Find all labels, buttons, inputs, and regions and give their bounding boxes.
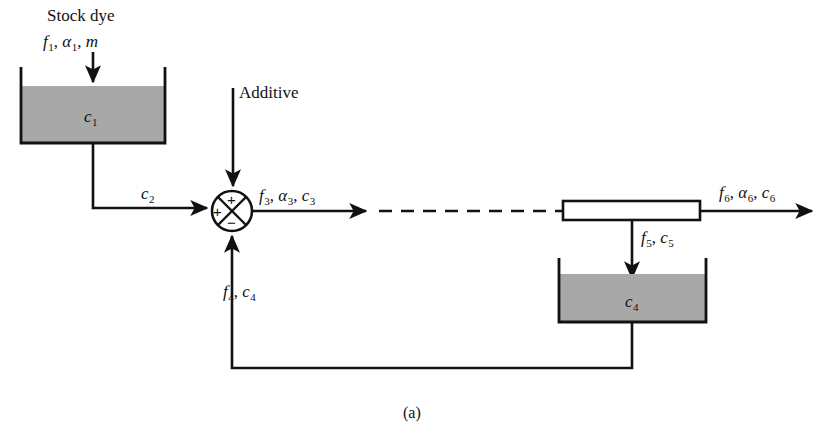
stock-dye-vars-label: f1, α1, m — [43, 33, 98, 53]
c5-symbol: c — [660, 228, 668, 247]
c6-subscript: 6 — [769, 192, 775, 204]
comma-4: , — [293, 186, 302, 205]
stream-c2-label: c2 — [141, 185, 155, 205]
c1-subscript: 1 — [92, 116, 98, 128]
comma-5: , — [234, 282, 243, 301]
c4-stream-symbol: c — [242, 282, 250, 301]
figure-caption: (a) — [403, 404, 421, 422]
summing-sign-bottom: − — [227, 215, 236, 230]
comma-3: , — [270, 186, 279, 205]
additive-label: Additive — [239, 84, 299, 101]
diagram-canvas — [0, 0, 821, 438]
comma-1: , — [54, 32, 63, 51]
c4-subscript: 4 — [633, 301, 639, 313]
comma-7: , — [730, 183, 739, 202]
summing-sign-top: + — [227, 192, 236, 207]
stream-f6-label: f6, α6, c6 — [719, 184, 775, 204]
c5-subscript: 5 — [668, 237, 674, 249]
summing-sign-left: + — [213, 204, 222, 219]
c2-subscript: 2 — [149, 193, 155, 205]
comma-6: , — [652, 228, 661, 247]
comma-2: , — [77, 32, 86, 51]
c3-subscript: 3 — [309, 195, 315, 207]
tank2-concentration-label: c4 — [625, 293, 639, 313]
c1-symbol: c — [84, 107, 92, 126]
inline-mixer-pipe — [563, 201, 700, 220]
stream-f4-label: f4, c4 — [223, 283, 256, 303]
alpha1-symbol: α — [62, 32, 71, 51]
alpha3-symbol: α — [278, 186, 287, 205]
comma-8: , — [753, 183, 762, 202]
m-symbol: m — [86, 32, 98, 51]
c4-stream-subscript: 4 — [250, 291, 256, 303]
c2-symbol: c — [141, 184, 149, 203]
c4-symbol: c — [625, 292, 633, 311]
stock-dye-label: Stock dye — [47, 7, 115, 24]
stream-f5-label: f5, c5 — [641, 229, 674, 249]
stream-f3-label: f3, α3, c3 — [259, 187, 315, 207]
alpha6-symbol: α — [738, 183, 747, 202]
process-flow-figure: + + − Stock dye f1, α1, m c1 Additive c2… — [0, 0, 821, 438]
tank1-concentration-label: c1 — [84, 108, 98, 128]
